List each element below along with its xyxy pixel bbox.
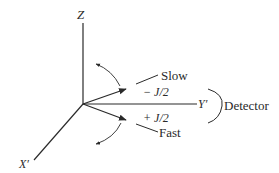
- x-axis: [34, 104, 83, 160]
- plus-j-half-label: + J/2: [143, 111, 169, 125]
- lower-rotation-arrow: [96, 123, 121, 144]
- slow-leader-line: [136, 75, 158, 84]
- upper-rotation-arrow: [96, 64, 120, 86]
- fast-label: Fast: [159, 125, 181, 140]
- y-axis-label: Y′: [198, 97, 208, 111]
- detector-label: Detector: [224, 98, 269, 113]
- fast-leader-line: [136, 124, 158, 132]
- slow-spin-arrow: [83, 89, 126, 104]
- minus-j-half-label: − J/2: [143, 85, 169, 99]
- slow-label: Slow: [161, 68, 188, 83]
- x-axis-label: X′: [18, 157, 29, 171]
- fast-spin-arrow: [83, 104, 126, 120]
- z-axis-label: Z: [77, 7, 85, 22]
- spin-diagram: Z Y′ X′ Slow Fast − J/2 + J/2 Detector: [0, 0, 279, 173]
- detector-bracket: [208, 89, 222, 123]
